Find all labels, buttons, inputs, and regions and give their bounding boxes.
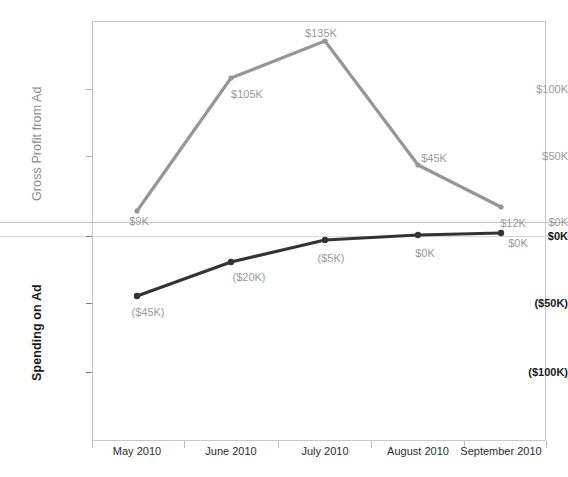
profit-zero-line [0, 222, 568, 223]
profit-ytick-50k: $50K [508, 151, 568, 162]
profit-axis-spine [92, 21, 93, 222]
profit-point-label-1: $105K [231, 89, 263, 100]
spend-tickmark-100k [86, 372, 92, 373]
spend-point-label-1: ($20K) [232, 272, 265, 283]
xtick-july-2010: July 2010 [301, 446, 348, 457]
xtick-august-2010: August 2010 [387, 446, 449, 457]
spend-axis-spine [92, 236, 93, 441]
spend-point-label-3: $0K [415, 248, 435, 259]
xaxis-separator [278, 441, 279, 448]
spend-ytick-100k: ($100K) [508, 367, 568, 378]
xaxis-separator [184, 441, 185, 448]
spend-tickmark-50k [86, 303, 92, 304]
spend-tickmark-0k [86, 236, 92, 237]
profit-point-label-3: $45K [421, 153, 447, 164]
profit-tickmark-50k [86, 156, 92, 157]
profit-ytick-100k: $100K [508, 84, 568, 95]
xtick-september-2010: September 2010 [460, 446, 541, 457]
xtick-june-2010: June 2010 [205, 446, 256, 457]
spend-ytick-50k: ($50K) [508, 298, 568, 309]
profit-point-label-2: $135K [305, 28, 337, 39]
spend-point-label-0: ($45K) [131, 307, 164, 318]
xaxis-separator [371, 441, 372, 448]
spend-axis-title: Spending on Ad [30, 284, 44, 381]
spend-point-label-2: ($5K) [318, 253, 345, 264]
profit-tickmark-100k [86, 89, 92, 90]
profit-point-label-0: $9K [129, 216, 149, 227]
dual-axis-line-chart: Gross Profit from Ad Spending on Ad $100… [0, 0, 568, 477]
xtick-may-2010: May 2010 [113, 446, 161, 457]
xaxis-separator [92, 441, 93, 448]
spend-point-label-4: $0K [508, 238, 528, 249]
plot-area [92, 21, 546, 441]
xaxis-separator [546, 441, 547, 448]
profit-point-label-4: $12K [500, 218, 526, 229]
profit-axis-title: Gross Profit from Ad [30, 86, 44, 201]
